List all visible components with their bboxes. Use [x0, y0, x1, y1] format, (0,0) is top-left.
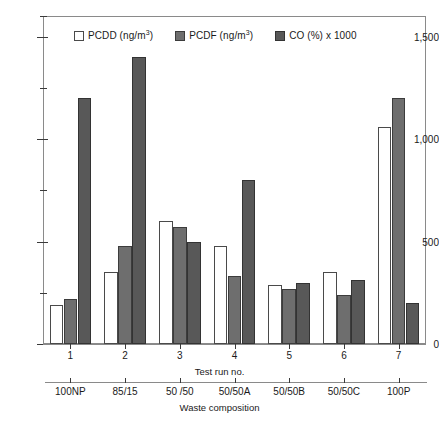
x-tick-label-secondary: 100P: [371, 386, 427, 397]
bar: [337, 295, 351, 344]
x-tick-secondary: [180, 378, 181, 383]
bar: [351, 280, 365, 344]
x-tick-label-secondary: 50/50B: [261, 386, 317, 397]
bar: [159, 221, 173, 344]
bar: [296, 283, 310, 345]
bar: [214, 246, 228, 344]
bar: [282, 289, 296, 344]
bar: [104, 272, 118, 344]
bars-layer: [43, 16, 426, 344]
bar: [187, 242, 201, 345]
x-tick-label-primary: 4: [220, 350, 250, 361]
x-axis-secondary-line: [45, 382, 427, 383]
x-tick-primary: [235, 344, 236, 349]
bar: [173, 227, 187, 344]
x-tick-label-primary: 2: [110, 350, 140, 361]
bar: [118, 246, 132, 344]
x-tick-label-primary: 5: [274, 350, 304, 361]
bar: [132, 57, 146, 344]
x-tick-primary: [70, 344, 71, 349]
x-tick-primary: [399, 344, 400, 349]
x-tick-label-secondary: 85/15: [97, 386, 153, 397]
x-tick-secondary: [235, 378, 236, 383]
bar: [242, 180, 256, 344]
x-tick-label-secondary: 50 /50: [152, 386, 208, 397]
bar: [378, 127, 392, 344]
x-tick-primary: [180, 344, 181, 349]
x-tick-label-primary: 3: [165, 350, 195, 361]
bar: [78, 98, 92, 344]
x-tick-primary: [289, 344, 290, 349]
x-tick-secondary: [125, 378, 126, 383]
x-tick-label-primary: 7: [384, 350, 414, 361]
x-axis-secondary-title: Waste composition: [0, 402, 439, 413]
bar: [392, 98, 406, 344]
bar: [64, 299, 78, 344]
x-tick-label-secondary: 50/50A: [207, 386, 263, 397]
x-tick-secondary: [289, 378, 290, 383]
x-tick-label-secondary: 100NP: [42, 386, 98, 397]
x-tick-label-primary: 1: [55, 350, 85, 361]
x-tick-label-secondary: 50/50C: [316, 386, 372, 397]
x-tick-primary: [344, 344, 345, 349]
x-tick-primary: [125, 344, 126, 349]
bar: [406, 303, 420, 344]
x-tick-secondary: [344, 378, 345, 383]
grouped-bar-chart: 05001,0001,500 PCDD (ng/m3) PCDF (ng/m3)…: [0, 0, 439, 422]
bar: [323, 272, 337, 344]
x-tick-secondary: [399, 378, 400, 383]
x-axis-primary-title: Test run no.: [0, 366, 439, 377]
bar: [50, 305, 64, 344]
x-tick-label-primary: 6: [329, 350, 359, 361]
x-tick-secondary: [70, 378, 71, 383]
bar: [268, 285, 282, 344]
bar: [228, 276, 242, 344]
